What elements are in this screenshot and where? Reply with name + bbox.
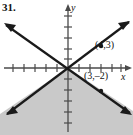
x-axis-label: x bbox=[121, 72, 125, 82]
axis-arrowheads bbox=[65, 4, 132, 71]
point-label-3-neg2: (3,–2) bbox=[84, 70, 108, 81]
y-axis-label: y bbox=[71, 3, 75, 13]
graph-figure: 31. bbox=[0, 0, 133, 135]
point-marker-3-neg2 bbox=[99, 89, 103, 93]
x-axis-arrow-right-icon bbox=[125, 65, 132, 71]
coordinate-plane-svg bbox=[0, 0, 133, 135]
point-label-4-3: (4,3) bbox=[95, 39, 114, 50]
